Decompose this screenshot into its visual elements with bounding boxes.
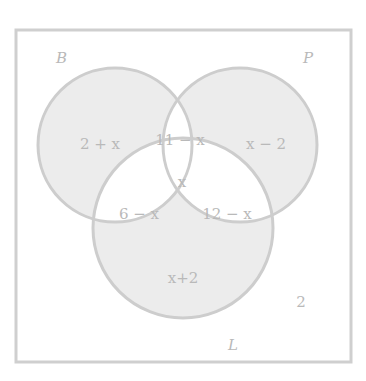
venn-diagram: B P L 2 + x x − 2 11 − x x 6 − x 12 − x … [0,0,366,381]
region-b-and-p: 11 − x [155,131,205,149]
region-b-and-l: 6 − x [119,205,160,223]
set-label-l: L [227,336,238,354]
venn-svg: B P L 2 + x x − 2 11 − x x 6 − x 12 − x … [0,0,366,381]
region-b-p-l: x [178,173,187,191]
set-label-p: P [302,49,314,67]
region-p-and-l: 12 − x [202,205,252,223]
region-l-only: x+2 [168,269,199,287]
region-outside: 2 [296,293,306,311]
set-label-b: B [55,49,67,67]
region-b-only: 2 + x [80,135,121,153]
region-p-only: x − 2 [246,135,286,153]
